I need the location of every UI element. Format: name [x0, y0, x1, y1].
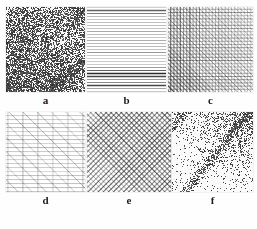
figure-root: a b c d	[0, 0, 257, 229]
panel-e-canvas	[87, 112, 171, 192]
panel-row-top: a b c	[6, 7, 253, 106]
panel-a: a	[6, 7, 85, 106]
panel-d-image	[6, 112, 85, 192]
panel-d-label: d	[6, 194, 85, 206]
panel-f: f	[172, 112, 253, 206]
panel-e-image	[87, 112, 171, 192]
panel-e: e	[87, 112, 171, 206]
panel-e-label: e	[87, 194, 171, 206]
panel-a-label: a	[6, 94, 85, 106]
panel-f-image	[172, 112, 253, 192]
panel-c-label: c	[168, 94, 253, 106]
panel-c: c	[168, 7, 253, 106]
panel-f-canvas	[172, 112, 253, 192]
panel-d: d	[6, 112, 85, 206]
panel-c-image	[168, 7, 253, 92]
panel-b-label: b	[87, 94, 166, 106]
panel-f-label: f	[172, 194, 253, 206]
panel-d-canvas	[6, 112, 85, 192]
panel-b-image	[87, 7, 166, 92]
panel-a-canvas	[6, 7, 85, 92]
panel-b-canvas	[87, 7, 166, 92]
panel-c-canvas	[168, 7, 253, 92]
panel-b: b	[87, 7, 166, 106]
panel-row-bottom: d e f	[6, 112, 253, 206]
panel-a-image	[6, 7, 85, 92]
